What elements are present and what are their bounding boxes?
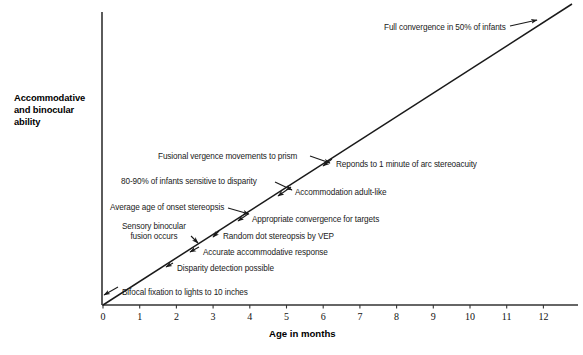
chart-canvas	[0, 0, 583, 355]
x-tick-label: 9	[425, 311, 441, 322]
x-tick-label: 7	[352, 311, 368, 322]
annotation-label: Average age of onset stereopsis	[110, 203, 224, 213]
annotation-label: Sensory binocularfusion occurs	[122, 222, 186, 242]
x-tick-label: 3	[205, 311, 221, 322]
annotation-arrow	[310, 156, 330, 163]
annotation-label: Full convergence in 50% of infants	[384, 23, 506, 33]
annotation-label: Accommodation adult-like	[295, 188, 386, 198]
annotation-label-line: fusion occurs	[122, 232, 186, 242]
y-axis-title-line: Accommodative	[14, 92, 98, 104]
x-tick-label: 11	[499, 311, 515, 322]
annotation-label: Random dot stereopsis by VEP	[223, 232, 334, 242]
x-tick-label: 10	[462, 311, 478, 322]
annotation-arrow	[228, 208, 249, 214]
chart-container: Accommodativeand binocularability 012345…	[0, 0, 583, 355]
annotation-label: Disparity detection possible	[177, 264, 274, 274]
x-tick-label: 0	[95, 311, 111, 322]
y-axis-title-line: ability	[14, 116, 98, 128]
y-axis-title: Accommodativeand binocularability	[14, 92, 98, 129]
annotation-label: Appropriate convergence for targets	[252, 215, 379, 225]
y-axis-title-line: and binocular	[14, 104, 98, 116]
x-tick-label: 8	[389, 311, 405, 322]
x-tick-label: 6	[315, 311, 331, 322]
annotation-label: Fusional vergence movements to prism	[158, 152, 297, 162]
x-axis-title: Age in months	[269, 328, 336, 339]
x-tick-label: 2	[168, 311, 184, 322]
x-tick-label: 5	[279, 311, 295, 322]
x-tick-label: 1	[132, 311, 148, 322]
x-tick-label: 4	[242, 311, 258, 322]
annotation-label: Accurate accommodative response	[203, 248, 328, 258]
annotation-label: Bifocal fixation to lights to 10 inches	[122, 288, 248, 298]
annotation-arrow	[510, 20, 537, 26]
annotation-arrow	[104, 287, 118, 295]
annotation-label-line: Sensory binocular	[122, 222, 186, 232]
annotation-label: Reponds to 1 minute of arc stereoacuity	[336, 160, 477, 170]
annotation-label: 80-90% of infants sensitive to disparity	[121, 177, 257, 187]
x-tick-label: 12	[535, 311, 551, 322]
annotation-arrow	[191, 236, 198, 243]
